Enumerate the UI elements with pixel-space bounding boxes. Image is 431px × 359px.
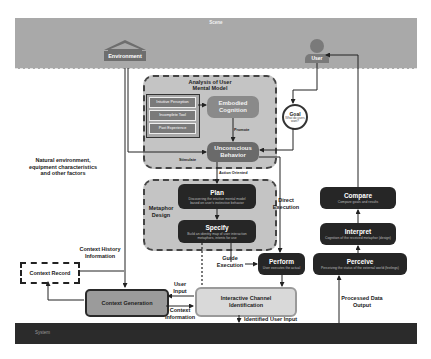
connector-lines (0, 0, 431, 359)
